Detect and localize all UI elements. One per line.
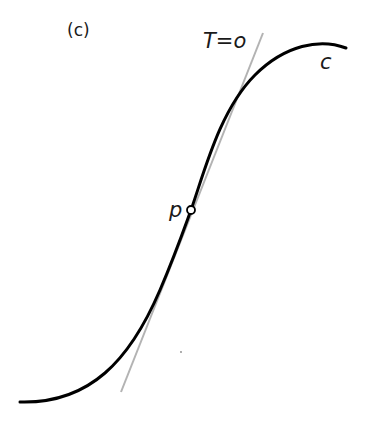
stray-dot	[180, 351, 182, 353]
curve-label: c	[320, 52, 332, 73]
panel-label: (c)	[67, 22, 90, 39]
diagram-canvas	[0, 0, 366, 425]
curve-c	[20, 44, 346, 402]
point-label: p	[169, 200, 182, 221]
tangent-label: T=o	[203, 31, 246, 52]
point-p-marker	[187, 206, 195, 214]
